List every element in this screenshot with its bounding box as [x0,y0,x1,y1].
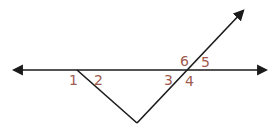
angle-label-6: 6 [180,53,189,69]
angle-label-4: 4 [185,73,194,89]
right-transversal [137,11,243,123]
angles-diagram: 1 2 3 4 6 5 [0,0,272,131]
angle-label-5: 5 [201,54,210,70]
angle-label-1: 1 [69,72,78,88]
left-transversal [77,70,137,123]
angle-label-2: 2 [94,72,103,88]
angle-label-3: 3 [164,72,173,88]
